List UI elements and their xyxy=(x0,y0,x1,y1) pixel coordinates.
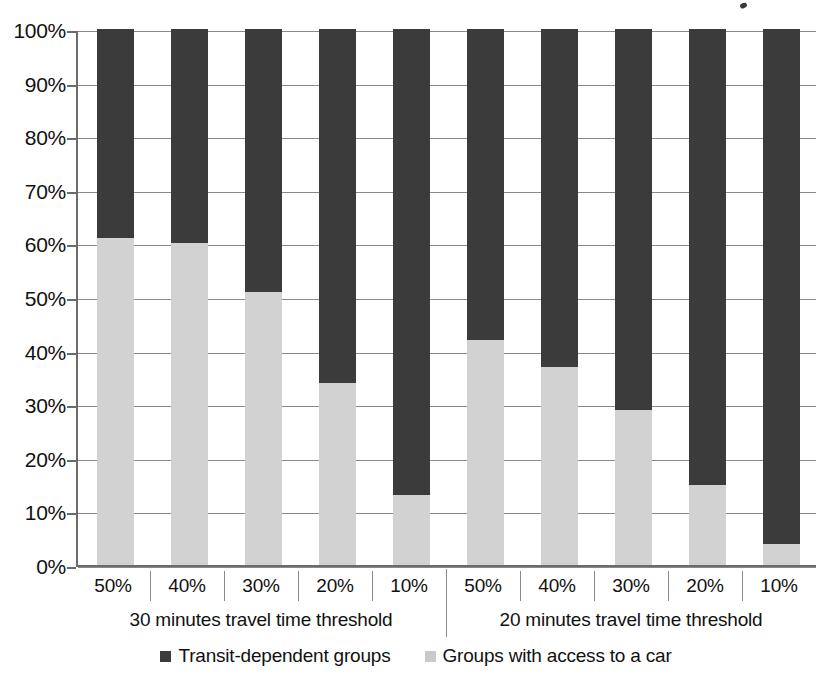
gridline-0 xyxy=(78,567,816,568)
y-axis-tick-80 xyxy=(67,138,76,140)
bar-column xyxy=(689,29,726,565)
bar-column xyxy=(467,29,504,565)
bars-layer xyxy=(78,31,816,565)
x-axis-category-label: 30% xyxy=(224,569,298,603)
y-axis-label-80: 80% xyxy=(2,127,66,148)
bar-column xyxy=(245,29,282,565)
bar-segment-transit-dependent xyxy=(393,29,430,495)
x-axis-category-label: 50% xyxy=(446,569,520,603)
y-axis-label-60: 60% xyxy=(2,234,66,255)
y-axis-tick-10 xyxy=(67,513,76,515)
y-axis-label-20: 20% xyxy=(2,449,66,470)
y-axis-tick-90 xyxy=(67,85,76,87)
bar-segment-transit-dependent xyxy=(245,29,282,292)
bar-segment-car-access xyxy=(689,485,726,565)
y-axis-tick-40 xyxy=(67,353,76,355)
bar-segment-transit-dependent xyxy=(763,29,800,544)
scan-artifact-speck xyxy=(739,2,747,9)
y-axis-label-70: 70% xyxy=(2,181,66,202)
y-axis-label-90: 90% xyxy=(2,74,66,95)
legend-item-label: Transit-dependent groups xyxy=(178,645,390,667)
x-axis-category-label: 50% xyxy=(76,569,150,603)
bar-column xyxy=(763,29,800,565)
y-axis-label-10: 10% xyxy=(2,502,66,523)
x-axis-separator xyxy=(594,571,595,601)
x-axis-separator xyxy=(298,571,299,601)
bar-segment-transit-dependent xyxy=(615,29,652,410)
bar-column xyxy=(171,29,208,565)
bar-segment-car-access xyxy=(245,292,282,565)
bar-segment-car-access xyxy=(393,495,430,565)
dark-square-icon xyxy=(160,651,171,662)
x-axis-separator xyxy=(372,571,373,601)
bar-segment-car-access xyxy=(615,410,652,565)
plot-area xyxy=(76,31,816,567)
bar-segment-transit-dependent xyxy=(689,29,726,485)
bar-segment-car-access xyxy=(319,383,356,565)
bar-segment-car-access xyxy=(97,238,134,565)
bar-segment-transit-dependent xyxy=(97,29,134,238)
stacked-bar-chart: 100%90%80%70%60%50%40%30%20%10%0% 50%40%… xyxy=(0,0,832,686)
bar-column xyxy=(541,29,578,565)
bar-column xyxy=(393,29,430,565)
chart-legend: Transit-dependent groupsGroups with acce… xyxy=(0,645,832,667)
x-axis-separator xyxy=(520,571,521,601)
y-axis-label-100: 100% xyxy=(2,20,66,41)
x-axis-separator xyxy=(742,571,743,601)
x-axis-group-label: 30 minutes travel time threshold xyxy=(76,603,446,637)
light-square-icon xyxy=(425,651,436,662)
x-axis-category-label: 20% xyxy=(298,569,372,603)
bar-segment-transit-dependent xyxy=(541,29,578,367)
bar-column xyxy=(319,29,356,565)
x-axis-category-label: 20% xyxy=(668,569,742,603)
y-axis-label-30: 30% xyxy=(2,395,66,416)
bar-segment-car-access xyxy=(541,367,578,565)
legend-item-label: Groups with access to a car xyxy=(443,645,672,667)
y-axis-label-0: 0% xyxy=(2,556,66,577)
y-axis-label-50: 50% xyxy=(2,288,66,309)
x-axis-group-label: 20 minutes travel time threshold xyxy=(446,603,816,637)
y-axis-tick-100 xyxy=(67,31,76,33)
legend-item[interactable]: Groups with access to a car xyxy=(425,645,672,667)
bar-column xyxy=(615,29,652,565)
y-axis-tick-60 xyxy=(67,245,76,247)
y-axis-tick-50 xyxy=(67,299,76,301)
x-axis-category-label: 40% xyxy=(150,569,224,603)
bar-segment-car-access xyxy=(467,340,504,565)
y-axis-tick-0 xyxy=(67,567,76,569)
y-axis-labels: 100%90%80%70%60%50%40%30%20%10%0% xyxy=(0,0,66,686)
x-axis-separator xyxy=(224,571,225,601)
y-axis-tick-20 xyxy=(67,460,76,462)
x-axis-group-separator xyxy=(446,569,447,637)
x-axis-category-label: 30% xyxy=(594,569,668,603)
x-axis-category-label: 10% xyxy=(742,569,816,603)
y-axis-tick-30 xyxy=(67,406,76,408)
bar-segment-transit-dependent xyxy=(467,29,504,340)
x-axis-group-band: 30 minutes travel time threshold20 minut… xyxy=(76,603,816,637)
bar-segment-transit-dependent xyxy=(171,29,208,243)
bar-column xyxy=(97,29,134,565)
x-axis-category-label: 10% xyxy=(372,569,446,603)
x-axis-separator xyxy=(150,571,151,601)
bar-segment-car-access xyxy=(763,544,800,565)
bar-segment-transit-dependent xyxy=(319,29,356,383)
bar-segment-car-access xyxy=(171,243,208,565)
x-axis-separator xyxy=(668,571,669,601)
x-axis-category-label: 40% xyxy=(520,569,594,603)
legend-item[interactable]: Transit-dependent groups xyxy=(160,645,390,667)
y-axis-tick-70 xyxy=(67,192,76,194)
y-axis-label-40: 40% xyxy=(2,342,66,363)
